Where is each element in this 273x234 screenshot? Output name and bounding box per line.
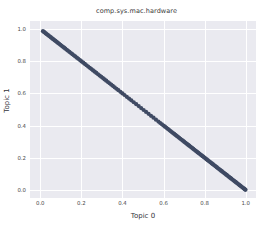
scatter-points-layer bbox=[30, 21, 256, 198]
x-tick-label: 0.4 bbox=[118, 200, 127, 207]
x-axis-label: Topic 0 bbox=[30, 212, 256, 221]
y-tick-label: 0.4 bbox=[17, 122, 26, 129]
scatter-series bbox=[41, 29, 248, 192]
x-tick-label: 0.0 bbox=[36, 200, 45, 207]
y-tick-label: 0.6 bbox=[17, 90, 26, 97]
chart-title: comp.sys.mac.hardware bbox=[0, 7, 273, 15]
x-tick-label: 0.2 bbox=[77, 200, 86, 207]
figure-canvas: comp.sys.mac.hardware 0.00.20.40.60.81.0… bbox=[0, 0, 273, 234]
y-tick-label: 0.2 bbox=[17, 154, 26, 161]
y-tick-label: 0.0 bbox=[17, 186, 26, 193]
plot-area bbox=[30, 21, 256, 198]
y-tick-label: 0.8 bbox=[17, 58, 26, 65]
x-tick-label: 1.0 bbox=[241, 200, 250, 207]
y-axis-label: Topic 1 bbox=[3, 71, 12, 131]
x-tick-label: 0.8 bbox=[200, 200, 209, 207]
y-tick-label: 1.0 bbox=[17, 26, 26, 33]
x-tick-label: 0.6 bbox=[159, 200, 168, 207]
scatter-point bbox=[243, 188, 247, 192]
